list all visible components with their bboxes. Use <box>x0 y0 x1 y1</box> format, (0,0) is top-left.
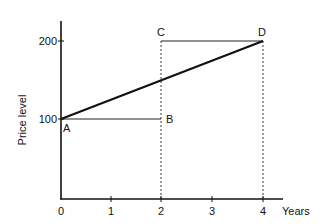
x-tick-label-1: 1 <box>108 205 114 217</box>
point-label-d: D <box>258 26 266 38</box>
x-tick-label-0: 0 <box>58 205 64 217</box>
x-tick-label-4: 4 <box>260 205 266 217</box>
x-axis-label: Years <box>282 205 310 217</box>
point-label-a: A <box>63 122 71 134</box>
line-a-d <box>61 41 263 119</box>
point-label-c: C <box>157 26 165 38</box>
x-tick-label-3: 3 <box>209 205 215 217</box>
y-tick-label-100: 100 <box>39 113 57 125</box>
x-tick-label-2: 2 <box>158 205 164 217</box>
y-tick-label-200: 200 <box>39 35 57 47</box>
y-axis-label: Price level <box>16 95 28 146</box>
point-label-b: B <box>166 113 173 125</box>
price-level-chart: 200 100 0 1 2 3 4 Years Price level A B … <box>0 0 324 224</box>
